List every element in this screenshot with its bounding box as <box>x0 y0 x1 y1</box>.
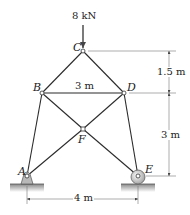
member-fd <box>83 93 124 129</box>
node-f <box>81 127 85 131</box>
node-e <box>136 174 140 178</box>
truss-nodes <box>25 49 140 178</box>
node-label-c: C <box>73 42 81 53</box>
node-d <box>122 91 126 95</box>
member-de <box>124 93 138 176</box>
member-bf <box>42 93 83 129</box>
member-fe <box>83 129 138 176</box>
member-af <box>27 129 83 176</box>
load-label: 8 kN <box>72 11 96 21</box>
node-label-f: F <box>78 134 86 145</box>
member-ab <box>27 93 42 176</box>
truss-members <box>27 51 138 176</box>
dim-label-base-width: 4 m <box>73 193 94 203</box>
node-c <box>81 49 85 53</box>
node-label-b: B <box>33 82 41 93</box>
dim-label-bd-width: 3 m <box>74 81 95 91</box>
node-label-a: A <box>18 166 26 177</box>
node-label-e: E <box>145 164 153 175</box>
truss-diagram <box>0 0 190 215</box>
dim-label-upper-height: 1.5 m <box>156 67 187 77</box>
node-label-d: D <box>127 82 136 93</box>
dim-label-lower-height: 3 m <box>160 130 181 140</box>
